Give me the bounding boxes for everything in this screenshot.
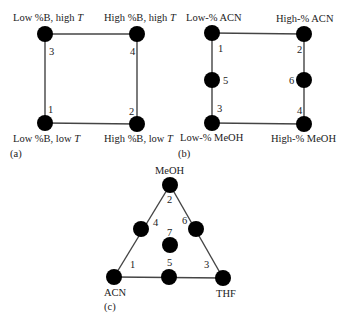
edge: [212, 123, 304, 124]
panel-c: MeOH ACN THF 1 2 3 4 5 6 7 (c): [104, 165, 236, 313]
node: [129, 116, 145, 132]
label-bottom-right: High-% MeOH: [271, 133, 336, 144]
node-number: 3: [204, 259, 209, 270]
node: [161, 269, 177, 285]
node: [162, 177, 178, 193]
label-top-left: Low %B, high T: [13, 12, 84, 23]
caption-b: (b): [178, 148, 191, 160]
label-bottom-left: Low-% MeOH: [180, 132, 244, 143]
label-top-left: Low-% ACN: [186, 12, 242, 23]
node-number: 5: [223, 75, 228, 86]
node-number: 3: [49, 46, 54, 57]
node: [37, 26, 53, 42]
caption-a: (a): [10, 148, 22, 160]
node: [296, 26, 312, 42]
node: [204, 72, 220, 88]
node-number: 7: [167, 227, 172, 238]
node-number: 4: [130, 46, 136, 57]
node-number: 4: [153, 217, 159, 228]
node-number: 5: [167, 257, 172, 268]
panel-a: Low %B, high T High %B, high T Low %B, l…: [10, 12, 177, 160]
label-bottom-right: THF: [216, 288, 236, 299]
node-number: 2: [297, 44, 302, 55]
node: [133, 221, 149, 237]
node: [162, 237, 178, 253]
edge: [45, 123, 137, 124]
node-number: 6: [289, 75, 294, 86]
label-bottom-left: ACN: [104, 287, 127, 298]
node: [37, 115, 53, 131]
caption-c: (c): [104, 301, 116, 313]
node-number: 1: [218, 43, 223, 54]
node: [215, 270, 231, 286]
panel-b: Low-% ACN High-% ACN Low-% MeOH High-% M…: [178, 12, 336, 160]
node: [106, 269, 122, 285]
label-top-right: High-% ACN: [276, 13, 334, 24]
node: [129, 26, 145, 42]
edge: [212, 33, 304, 34]
node-number: 2: [129, 106, 134, 117]
node: [296, 72, 312, 88]
design-diagrams: Low %B, high T High %B, high T Low %B, l…: [0, 0, 347, 318]
label-bottom-left: Low %B, low T: [13, 133, 81, 144]
node-number: 1: [48, 104, 53, 115]
node: [204, 115, 220, 131]
node: [296, 116, 312, 132]
node-number: 4: [297, 105, 303, 116]
node: [204, 25, 220, 41]
node-number: 3: [217, 103, 222, 114]
node: [188, 221, 204, 237]
node-number: 2: [167, 194, 172, 205]
node-number: 6: [182, 215, 187, 226]
label-top-right: High %B, high T: [104, 12, 177, 23]
label-bottom-right: High %B, low T: [104, 133, 174, 144]
node-number: 1: [130, 259, 135, 270]
label-top: MeOH: [155, 165, 185, 176]
